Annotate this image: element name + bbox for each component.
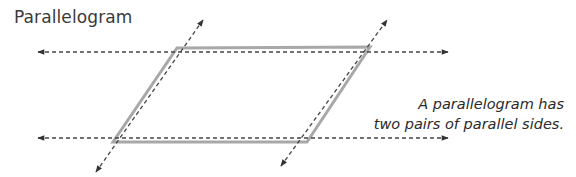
- right-parallel-line: [281, 20, 387, 166]
- caption-line-1: A parallelogram has: [374, 94, 564, 114]
- caption: A parallelogram has two pairs of paralle…: [374, 94, 564, 134]
- parallelogram-diagram: [0, 0, 576, 177]
- parallelogram-shape: [113, 47, 370, 142]
- caption-line-2: two pairs of parallel sides.: [374, 114, 564, 134]
- left-parallel-line: [96, 20, 203, 172]
